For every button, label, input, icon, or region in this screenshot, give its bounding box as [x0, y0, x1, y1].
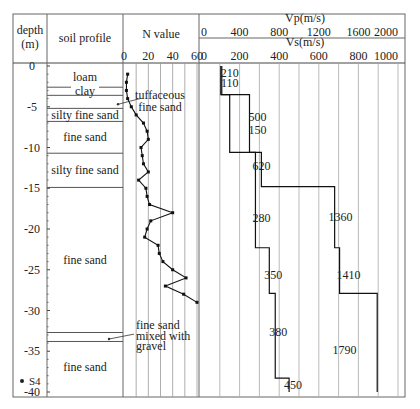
n-value-point — [182, 293, 185, 296]
borehole-dot — [20, 379, 24, 383]
depth-tick-label: -10 — [24, 141, 40, 155]
callout-leader — [109, 334, 134, 339]
n-value-point — [146, 130, 149, 133]
n-value-point — [125, 81, 128, 84]
vp-axis-label: Vp(m/s) — [285, 11, 325, 25]
n-value-point — [125, 89, 128, 92]
velocity-value-label: 380 — [269, 325, 287, 339]
n-value-point — [142, 122, 145, 125]
n-value-point — [130, 105, 133, 108]
vp-tick-label: 2000 — [374, 25, 398, 39]
depth-tick-label: -40 — [24, 385, 40, 399]
n-value-point — [147, 138, 150, 141]
depth-header-line2: (m) — [21, 37, 38, 51]
velocity-value-label: 110 — [221, 76, 239, 90]
n-value-point — [146, 195, 149, 198]
vs-tick-label: 400 — [270, 49, 288, 63]
n-value-point — [141, 154, 144, 157]
vp-tick-label: 1200 — [307, 25, 331, 39]
velocity-value-label: 350 — [264, 268, 282, 282]
depth-tick-label: 0 — [29, 59, 35, 73]
soil-profile-header: soil profile — [59, 31, 111, 45]
n-value-point — [147, 170, 150, 173]
callout-leader-dot — [117, 103, 119, 105]
soil-profile-layers: loamclaysilty fine sandfine sandsilty fi… — [47, 70, 190, 374]
vs-tick-label: 1000 — [374, 49, 398, 63]
soil-layer-label: fine sand — [63, 253, 107, 267]
velocity-value-label: 450 — [284, 378, 302, 392]
velocity-value-label: 500 — [248, 110, 266, 124]
n-value-point — [149, 219, 152, 222]
velocity-value-label: 1790 — [333, 343, 357, 357]
n-tick-label: 20 — [142, 49, 154, 63]
vp-tick-label: 1600 — [346, 25, 370, 39]
depth-tick-label: -5 — [27, 100, 37, 114]
n-value-point — [185, 276, 188, 279]
velocity-value-label: 620 — [252, 159, 270, 173]
n-value-point — [135, 113, 138, 116]
depth-tick-label: -15 — [24, 181, 40, 195]
n-value-point — [164, 285, 167, 288]
n-value-point — [144, 187, 147, 190]
outer-border — [13, 14, 405, 397]
callout-label-tuffaceous: fine sand — [138, 100, 182, 114]
depth-tick-label: -20 — [24, 222, 40, 236]
n-value-point — [148, 203, 151, 206]
soil-layer-label: clay — [75, 84, 95, 98]
soil-layer-label: silty fine sand — [51, 108, 118, 122]
depth-tick-label: -35 — [24, 344, 40, 358]
n-value-point — [157, 244, 160, 247]
vp-tick-label: 0 — [201, 25, 207, 39]
n-value-point — [158, 252, 161, 255]
velocity-value-label: 150 — [248, 123, 266, 137]
chart-frame — [13, 14, 405, 397]
n-value-point — [146, 228, 149, 231]
n-value-point — [196, 301, 199, 304]
callout-label-gravel: gravel — [136, 339, 167, 353]
depth-tick-label: -30 — [24, 304, 40, 318]
callout-leader-dot — [108, 338, 110, 340]
soil-layer-label: loam — [73, 70, 98, 84]
soil-layer-label: fine sand — [63, 360, 107, 374]
soil-layer-label: fine sand — [63, 130, 107, 144]
vp-tick-label: 400 — [231, 25, 249, 39]
velocity-value-label: 1410 — [337, 268, 361, 282]
borehole-log-chart: depth (m) soil profile N value Vp(m/s) V… — [0, 0, 420, 409]
vp-tick-label: 800 — [270, 25, 288, 39]
borehole-label: S4 — [29, 375, 41, 387]
n-value-point — [171, 268, 174, 271]
n-value-point — [126, 73, 129, 76]
vs-tick-label: 200 — [231, 49, 249, 63]
n-value-point — [126, 97, 129, 100]
depth-tick-label: -25 — [24, 263, 40, 277]
n-tick-label: 0 — [121, 49, 127, 63]
vs-tick-label: 800 — [349, 49, 367, 63]
velocity-value-label: 1360 — [329, 210, 353, 224]
depth-header-line1: depth — [17, 23, 44, 37]
vs-tick-label: 600 — [310, 49, 328, 63]
vs-tick-label: 0 — [201, 49, 207, 63]
soil-layer-label: silty fine sand — [51, 163, 118, 177]
n-value-point — [140, 146, 143, 149]
velocity-value-label: 280 — [252, 211, 270, 225]
n-value-point — [142, 162, 145, 165]
n-tick-label: 40 — [167, 49, 179, 63]
n-value-point — [161, 260, 164, 263]
n-value-point — [171, 211, 174, 214]
n-value-point — [137, 179, 140, 182]
n-value-header: N value — [142, 27, 180, 41]
n-value-point — [143, 236, 146, 239]
